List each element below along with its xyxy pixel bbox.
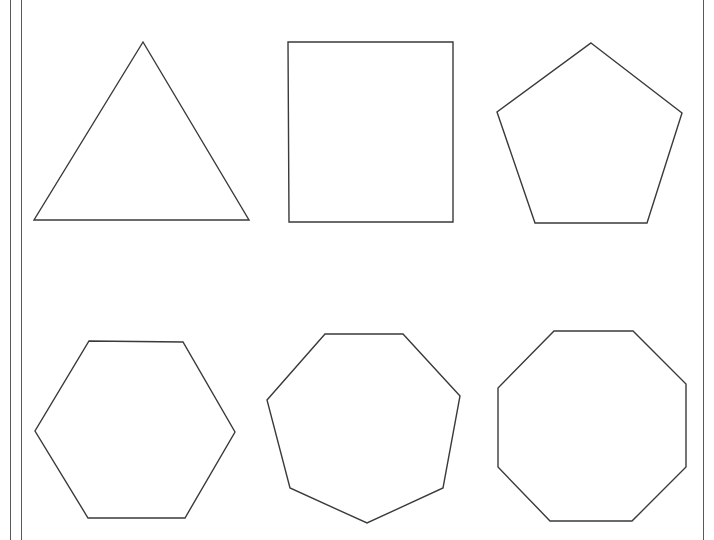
shapes-canvas xyxy=(0,0,714,540)
pentagon-shape xyxy=(497,43,682,223)
square-shape xyxy=(288,42,453,222)
octagon-shape xyxy=(498,331,686,521)
hexagon-shape xyxy=(35,341,235,518)
heptagon-shape xyxy=(267,334,460,523)
triangle-shape xyxy=(34,42,249,220)
